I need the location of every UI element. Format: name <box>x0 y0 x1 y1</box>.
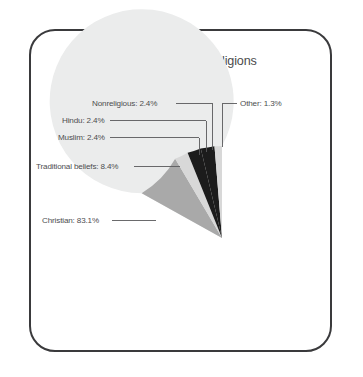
slice-label-muslim: Muslim: 2.4% <box>58 134 105 142</box>
pie-chart <box>0 0 363 377</box>
figure-container: South Africa: major religions <box>0 0 363 377</box>
slice-label-other: Other: 1.3% <box>240 100 282 108</box>
slice-label-christian: Christian: 83.1% <box>42 217 99 225</box>
slice-label-traditional-beliefs: Traditional beliefs: 8.4% <box>36 163 118 171</box>
slice-label-hindu: Hindu: 2.4% <box>62 117 104 125</box>
slice-label-nonreligious: Nonreligious: 2.4% <box>92 100 157 108</box>
